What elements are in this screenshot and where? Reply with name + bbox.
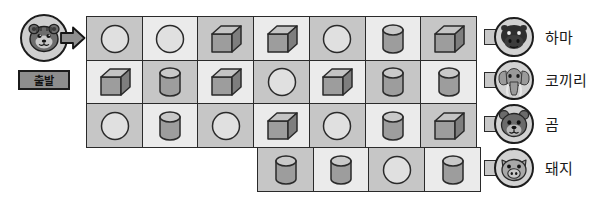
grid-cell[interactable] (197, 16, 254, 61)
grid-cell[interactable] (309, 16, 366, 61)
grid-cell[interactable] (142, 16, 199, 61)
animal-entry-elephant[interactable]: 코끼리 (494, 57, 587, 102)
animal-label: 코끼리 (545, 69, 587, 90)
pig-face-icon (494, 148, 534, 188)
grid-cell[interactable] (313, 147, 370, 192)
grid-row (86, 60, 477, 105)
grid-cell[interactable] (309, 103, 366, 148)
grid-cell[interactable] (420, 16, 477, 61)
grid-cell[interactable] (420, 60, 477, 105)
animal-label: 하마 (545, 26, 573, 47)
hippo-face-icon (494, 17, 534, 57)
animal-entry-pig[interactable]: 돼지 (494, 145, 573, 190)
grid-row (86, 16, 477, 61)
grid-cell[interactable] (253, 60, 310, 105)
grid-cell[interactable] (257, 147, 314, 192)
grid-cell[interactable] (424, 147, 481, 192)
grid-cell[interactable] (253, 16, 310, 61)
grid-cell[interactable] (368, 147, 425, 192)
grid-cell[interactable] (365, 16, 422, 61)
start-label: 출발 (18, 70, 70, 90)
grid-cell[interactable] (420, 103, 477, 148)
right-arrow-icon (60, 26, 86, 50)
animal-entry-hippo[interactable]: 하마 (494, 14, 573, 59)
animal-label: 돼지 (545, 157, 573, 178)
grid-cell[interactable] (253, 103, 310, 148)
animal-entry-bear[interactable]: 곰 (494, 101, 559, 146)
bear-face-icon (494, 104, 534, 144)
grid-cell[interactable] (86, 60, 143, 105)
grid-cell[interactable] (309, 60, 366, 105)
grid-cell[interactable] (365, 103, 422, 148)
grid-cell[interactable] (365, 60, 422, 105)
puzzle-canvas: 출발 (0, 0, 612, 215)
grid-row (86, 103, 477, 148)
grid-cell[interactable] (86, 103, 143, 148)
grid-cell[interactable] (86, 16, 143, 61)
grid-cell[interactable] (197, 103, 254, 148)
grid-cell[interactable] (142, 103, 199, 148)
grid-row (257, 147, 481, 192)
elephant-face-icon (494, 60, 534, 100)
grid-cell[interactable] (197, 60, 254, 105)
grid-cell[interactable] (142, 60, 199, 105)
animal-label: 곰 (545, 113, 559, 134)
